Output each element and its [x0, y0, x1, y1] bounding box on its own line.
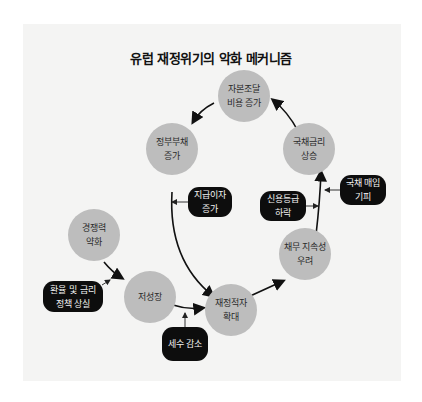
factor-fx-policy: 환율 및 금리 정책 상실	[43, 281, 103, 312]
node-gov-debt: 정부부채 증가	[146, 123, 198, 175]
node-competitiveness: 경쟁력 약화	[68, 209, 120, 261]
arrow-comp-to-growth	[104, 262, 122, 278]
node-funding-cost: 자본조달 비용 증가	[218, 70, 270, 122]
arrow-funding-to-debt	[193, 103, 214, 122]
factor-credit-rating: 신용등급 하락	[260, 191, 306, 221]
arrow-deficit-to-sustain	[248, 281, 283, 297]
factor-bond-avoid: 국채 매입 기피	[340, 175, 386, 205]
node-sustainability: 채무 지속성 우려	[279, 228, 331, 280]
arrow-fx-to-line	[102, 280, 110, 285]
factor-interest-payment: 지급이자 증가	[188, 187, 232, 217]
arrow-sustain-to-rate	[316, 172, 321, 235]
node-low-growth: 저성장	[124, 271, 176, 323]
factor-tax-revenue: 세수 감소	[162, 327, 208, 361]
arrow-growth-to-deficit	[173, 305, 203, 309]
node-bond-rate: 국채금리 상승	[283, 123, 335, 175]
node-deficit: 재정적자 확대	[205, 284, 257, 336]
